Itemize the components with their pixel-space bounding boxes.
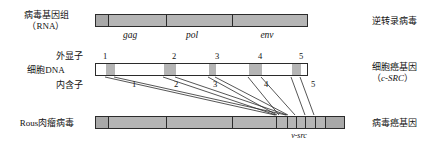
viral-genome-divider-1	[108, 15, 109, 26]
exon-caption: 外显子	[56, 51, 96, 62]
viral-genome-divider-2	[166, 15, 167, 26]
rsv-divider-9	[325, 117, 326, 128]
rsv-divider-5	[287, 117, 288, 128]
row-viral-genome-left-label-line1: 病毒基因组	[6, 10, 86, 21]
row-cellular-dna-right-label-line2: （c-SRC）	[372, 73, 438, 84]
intron-number-4: 4	[256, 80, 276, 89]
intron-number-5: 5	[303, 80, 323, 89]
rsv-vsrc-exon-2	[287, 117, 296, 128]
gene-label-pol: pol	[172, 30, 212, 40]
retrovirus-oncogene-diagram: 病毒基因组 （RNA） gag pol env 逆转录病毒 细胞DNA 外显子 …	[0, 0, 440, 149]
viral-genome-pol-segment	[166, 15, 232, 26]
rsv-divider-3	[232, 117, 233, 128]
exon-block-2	[164, 64, 176, 75]
rsv-divider-8	[315, 117, 316, 128]
exon-number-5: 5	[291, 52, 311, 61]
rous-sarcoma-virus-bar	[95, 116, 345, 129]
rsv-pol-segment	[166, 117, 232, 128]
row-cellular-dna-left-label: 细胞DNA	[6, 65, 86, 76]
row-rous-sarcoma-virus-right-label: 病毒癌基因	[372, 118, 438, 129]
viral-genome-divider-3	[232, 15, 233, 26]
rsv-vsrc-exon-4	[305, 117, 315, 128]
row-rous-sarcoma-virus-right-label-line1: 病毒癌基因	[372, 118, 438, 129]
connector-exon-3b	[215, 77, 288, 115]
cellular-dna-bar	[95, 63, 308, 76]
viral-genome-gag-segment	[108, 15, 166, 26]
intron-number-3: 3	[205, 80, 225, 89]
row-cellular-dna-right-label: 细胞癌基因 （c-SRC）	[372, 62, 438, 84]
rsv-vsrc-exon-1	[276, 117, 287, 128]
intron-number-2: 2	[166, 80, 186, 89]
rsv-divider-7	[305, 117, 306, 128]
exon-block-5	[292, 64, 301, 75]
exon-number-2: 2	[164, 52, 184, 61]
viral-genome-env-segment	[232, 15, 307, 26]
paren-open: （	[372, 73, 381, 83]
c-src-gene-name: c-SRC	[381, 73, 404, 83]
exon-number-1: 1	[95, 52, 115, 61]
rsv-gag-segment	[108, 117, 166, 128]
intron-caption: 内含子	[56, 80, 96, 91]
rsv-5prime-segment	[96, 117, 108, 128]
row-cellular-dna-left-label-line1: 细胞DNA	[6, 65, 86, 76]
row-viral-genome-right-label-line1: 逆转录病毒	[372, 16, 438, 27]
exon-block-3	[209, 64, 216, 75]
paren-close: ）	[404, 73, 413, 83]
rsv-divider-1	[108, 117, 109, 128]
rsv-3prime-segment	[325, 117, 344, 128]
rsv-env-segment	[232, 117, 276, 128]
gene-label-env: env	[247, 30, 287, 40]
row-viral-genome-left-label-line2: （RNA）	[6, 21, 86, 32]
viral-genome-bar	[95, 14, 308, 27]
row-rous-sarcoma-virus-left-label: Rous肉瘤病毒	[4, 118, 90, 129]
exon-block-4	[249, 64, 262, 75]
row-viral-genome-left-label: 病毒基因组 （RNA）	[6, 10, 86, 32]
rsv-vsrc-exon-3	[296, 117, 305, 128]
vsrc-label: v-src	[279, 131, 319, 141]
rsv-vsrc-exon-5	[315, 117, 325, 128]
gene-label-gag: gag	[110, 30, 150, 40]
rsv-divider-2	[166, 117, 167, 128]
exon-block-1	[106, 64, 115, 75]
intron-number-1: 1	[124, 80, 144, 89]
exon-number-4: 4	[250, 52, 270, 61]
exon-number-3: 3	[207, 52, 227, 61]
rsv-divider-6	[296, 117, 297, 128]
row-rous-sarcoma-virus-left-label-line1: Rous肉瘤病毒	[4, 118, 90, 129]
row-cellular-dna-right-label-line1: 细胞癌基因	[372, 62, 438, 73]
rsv-divider-4	[276, 117, 277, 128]
row-viral-genome-right-label: 逆转录病毒	[372, 16, 438, 27]
viral-genome-5prime-segment	[96, 15, 108, 26]
